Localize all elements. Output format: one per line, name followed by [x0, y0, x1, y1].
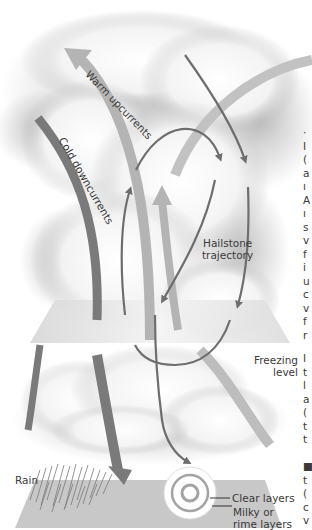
milky-rime-layers-label-line1: Milky or: [233, 506, 274, 518]
cropped-body-text-top: · I ( a ı A ı s v f i u c v f r: [303, 126, 312, 342]
freezing-level-label-line2: level: [273, 366, 298, 378]
hailstone-diagram: Warm upcurrents Cold downcurrents Hailst…: [0, 0, 312, 530]
text-fragment: t: [303, 433, 312, 447]
text-fragment: c: [303, 288, 312, 302]
text-fragment: ·: [303, 126, 312, 140]
text-fragment: ı: [303, 207, 312, 221]
text-fragment: ■: [303, 460, 312, 474]
text-fragment: l: [303, 379, 312, 393]
text-fragment: t: [303, 420, 312, 434]
text-fragment: (: [303, 487, 312, 501]
text-fragment: a: [303, 167, 312, 181]
text-fragment: i: [303, 261, 312, 275]
text-fragment: u: [303, 275, 312, 289]
text-fragment: [303, 447, 312, 461]
text-fragment: v: [303, 302, 312, 316]
text-fragment: v: [303, 234, 312, 248]
hailstone-trajectory-label-line2: trajectory: [202, 249, 253, 261]
freezing-level-label-line1: Freezing: [254, 354, 298, 366]
text-fragment: t: [303, 366, 312, 380]
text-fragment: c: [303, 501, 312, 515]
cropped-body-text-bottom: I t l a ( t t ■ t ( c v: [303, 352, 312, 528]
text-fragment: f: [303, 248, 312, 262]
text-fragment: (: [303, 406, 312, 420]
text-fragment: ı: [303, 180, 312, 194]
text-fragment: a: [303, 393, 312, 407]
rain-label: Rain: [15, 474, 38, 486]
text-fragment: v: [303, 514, 312, 528]
hailstone-trajectory-label-line1: Hailstone: [203, 237, 252, 249]
text-fragment: I: [303, 140, 312, 154]
text-fragment: s: [303, 221, 312, 235]
diagram-canvas: [0, 0, 312, 530]
text-fragment: r: [303, 329, 312, 343]
freezing-level-plane: [30, 300, 290, 343]
text-fragment: (: [303, 153, 312, 167]
cloud-upper: [0, 10, 312, 340]
text-fragment: A: [303, 194, 312, 208]
text-fragment: I: [303, 352, 312, 366]
text-fragment: t: [303, 474, 312, 488]
clear-layers-label: Clear layers: [232, 492, 295, 504]
milky-rime-layers-label-line2: rime layers: [233, 518, 292, 530]
text-fragment: f: [303, 315, 312, 329]
